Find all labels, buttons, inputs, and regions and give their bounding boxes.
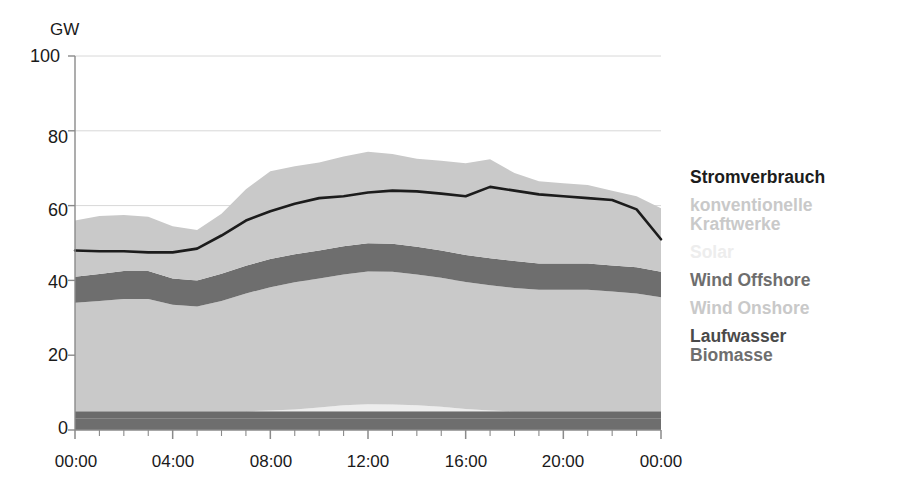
legend-entry-kraftwerke: Kraftwerke: [690, 215, 905, 234]
area-biomasse: [75, 419, 661, 430]
energy-stack-chart: GW 0 20 40 60 80 100 00:00 04:00 08:00 1…: [0, 0, 909, 499]
legend-entry-biomasse: Biomasse: [690, 346, 905, 365]
chart-legend: Stromverbrauch konventionelle Kraftwerke…: [690, 168, 905, 365]
legend-entry-solar: Solar: [690, 243, 905, 262]
legend-entry-wind-offshore: Wind Offshore: [690, 271, 905, 290]
legend-entry-stromverbrauch: Stromverbrauch: [690, 168, 905, 187]
legend-entry-wind-onshore: Wind Onshore: [690, 299, 905, 318]
legend-entry-konventionelle: konventionelle: [690, 196, 905, 215]
area-laufwasser: [75, 411, 661, 418]
legend-entry-laufwasser: Laufwasser: [690, 327, 905, 346]
